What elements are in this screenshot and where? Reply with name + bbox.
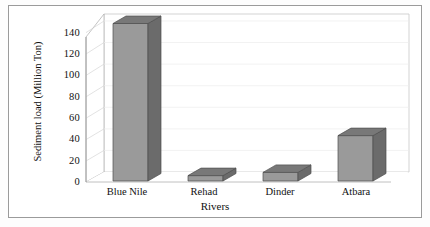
y-tick-120: 120 bbox=[48, 49, 80, 60]
y-tick-140: 140 bbox=[48, 28, 80, 39]
y-tick-100: 100 bbox=[48, 70, 80, 81]
plot-left-wall bbox=[86, 14, 104, 182]
x-tick-atbara: Atbara bbox=[342, 186, 371, 197]
bar-atbara[interactable] bbox=[338, 128, 386, 181]
x-tick-blue-nile: Blue Nile bbox=[107, 186, 148, 197]
y-tick-80: 80 bbox=[48, 92, 80, 103]
y-tick-20: 20 bbox=[48, 156, 80, 167]
x-tick-dinder: Dinder bbox=[265, 186, 294, 197]
y-tick-40: 40 bbox=[48, 134, 80, 145]
y-tick-60: 60 bbox=[48, 113, 80, 124]
x-tick-rehad: Rehad bbox=[191, 186, 218, 197]
chart-figure: 0 20 40 60 80 100 120 140 Sediment load … bbox=[0, 0, 430, 227]
y-axis-title: Sediment load (Million Ton) bbox=[32, 18, 43, 186]
x-axis-title: Rivers bbox=[0, 200, 430, 212]
bar-blue-nile[interactable] bbox=[113, 16, 161, 181]
